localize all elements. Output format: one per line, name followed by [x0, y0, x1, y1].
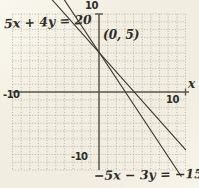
- graph-figure: 5x + 4y = 20 10 (0, 5) x 10 -10 -10 −5x …: [0, 0, 199, 188]
- axis-ticks: [95, 14, 186, 96]
- graph-line-2: [64, 0, 181, 176]
- line-series: [52, 0, 185, 176]
- graph-canvas: [0, 0, 199, 188]
- graph-line-1: [52, 0, 185, 150]
- axes: [13, 14, 190, 170]
